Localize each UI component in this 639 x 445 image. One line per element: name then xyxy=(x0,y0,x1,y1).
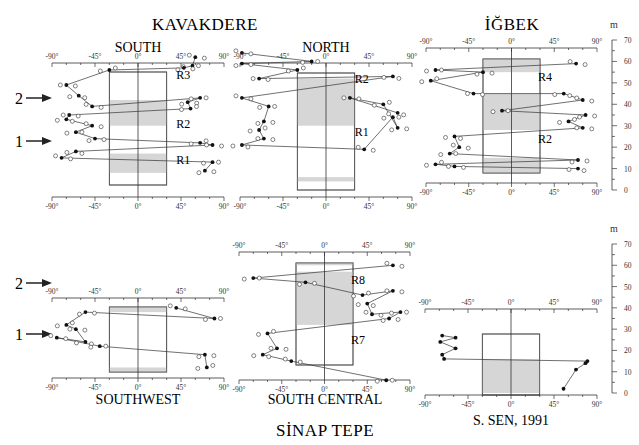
data-point-open xyxy=(379,313,383,317)
angle-tick-label: -45° xyxy=(275,241,288,250)
data-point-open xyxy=(573,117,577,121)
zone-label-r1: R1 xyxy=(355,125,369,139)
data-point-filled xyxy=(370,312,374,316)
data-point-open xyxy=(252,354,256,358)
data-point-filled xyxy=(213,317,217,321)
data-point-open xyxy=(187,53,191,57)
data-point-open xyxy=(590,99,594,103)
angle-tick-label: -90° xyxy=(420,188,433,197)
svg-text:1: 1 xyxy=(15,326,23,343)
data-point-open xyxy=(405,310,409,314)
data-point-open xyxy=(558,120,562,124)
data-point-open xyxy=(249,97,253,101)
height-unit: m xyxy=(610,19,618,30)
data-point-filled xyxy=(310,60,314,64)
data-point-open xyxy=(84,122,88,126)
data-point-filled xyxy=(574,62,578,66)
data-point-open xyxy=(439,153,443,157)
height-axis-bottom: 010203040506070m xyxy=(610,223,632,398)
data-point-open xyxy=(246,145,250,149)
height-tick-label: 40 xyxy=(624,100,632,109)
angle-tick-label: 0° xyxy=(323,202,330,211)
data-point-open xyxy=(263,126,267,130)
data-point-filled xyxy=(198,141,202,145)
data-point-filled xyxy=(500,109,504,113)
data-point-open xyxy=(553,93,557,97)
angle-tick-label: -45° xyxy=(277,52,290,61)
angle-tick-label: -45° xyxy=(89,52,102,61)
data-point-filled xyxy=(396,111,400,115)
data-point-filled xyxy=(567,120,571,124)
angle-tick-label: -45° xyxy=(275,385,288,394)
data-point-open xyxy=(99,105,103,109)
data-point-open xyxy=(258,105,262,109)
arrow-2: 2 xyxy=(15,90,52,107)
angle-tick-label: 0° xyxy=(323,52,330,61)
data-point-open xyxy=(298,282,302,286)
angle-tick-label: -90° xyxy=(419,400,432,409)
data-point-filled xyxy=(74,327,78,331)
height-tick-label: 50 xyxy=(624,283,632,292)
angle-tick-label: 0° xyxy=(135,287,142,296)
angle-tick-label: 0° xyxy=(508,37,515,46)
angle-tick-label: 0° xyxy=(508,400,515,409)
data-point-open xyxy=(397,115,401,119)
angle-tick-label: 90° xyxy=(219,52,230,61)
data-point-filled xyxy=(434,68,438,72)
angle-tick-label: 45° xyxy=(176,383,187,392)
data-point-open xyxy=(180,102,184,106)
height-tick-label: 30 xyxy=(624,325,632,334)
data-point-open xyxy=(491,110,495,114)
data-point-filled xyxy=(64,323,68,327)
angle-tick-label: 90° xyxy=(592,400,603,409)
data-point-filled xyxy=(98,344,102,348)
data-point-filled xyxy=(586,359,590,363)
data-point-open xyxy=(447,164,451,168)
data-point-open xyxy=(68,327,72,331)
data-point-open xyxy=(567,168,571,172)
data-point-open xyxy=(462,165,466,169)
data-point-open xyxy=(205,143,209,147)
data-point-open xyxy=(69,157,73,161)
height-tick-label: 20 xyxy=(624,346,632,355)
data-point-open xyxy=(385,289,389,293)
data-point-open xyxy=(98,69,102,73)
angle-tick-label: 45° xyxy=(364,52,375,61)
angle-tick-label: -90° xyxy=(233,241,246,250)
data-point-open xyxy=(475,72,479,76)
data-point-open xyxy=(382,75,386,79)
data-point-open xyxy=(87,139,91,143)
angle-tick-label: 45° xyxy=(549,188,560,197)
data-point-open xyxy=(242,277,246,281)
angle-tick-label: 0° xyxy=(508,188,515,197)
height-tick-label: 20 xyxy=(624,143,632,152)
data-point-filled xyxy=(240,143,244,147)
panel-title-sen-1991: S. SEN, 1991 xyxy=(473,413,549,428)
angle-tick-label: 45° xyxy=(176,202,187,211)
data-point-open xyxy=(316,59,320,63)
data-point-filled xyxy=(429,79,433,83)
data-point-open xyxy=(425,69,429,73)
data-point-open xyxy=(211,363,215,367)
data-point-filled xyxy=(576,158,580,162)
data-point-filled xyxy=(581,126,585,130)
data-point-filled xyxy=(384,378,388,382)
data-point-open xyxy=(55,118,59,122)
data-point-filled xyxy=(240,96,244,100)
data-point-open xyxy=(440,68,444,72)
angle-tick-label: 45° xyxy=(362,385,373,394)
data-point-open xyxy=(256,137,260,141)
data-point-filled xyxy=(434,162,438,166)
angle-tick-label: 90° xyxy=(405,385,416,394)
data-point-open xyxy=(451,143,455,147)
data-point-open xyxy=(440,160,444,164)
height-tick-label: 10 xyxy=(624,165,632,174)
angle-tick-label: -90° xyxy=(46,202,59,211)
data-point-open xyxy=(506,109,510,113)
data-point-open xyxy=(234,64,238,68)
data-point-open xyxy=(400,290,404,294)
data-point-open xyxy=(257,332,261,336)
data-point-filled xyxy=(442,357,446,361)
data-point-open xyxy=(301,66,305,70)
data-point-open xyxy=(271,138,275,142)
